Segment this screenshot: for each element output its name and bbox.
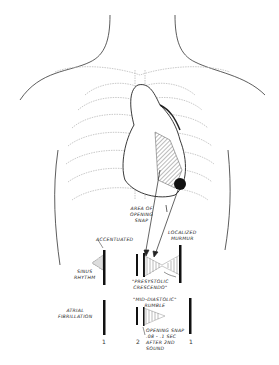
- label-line: RUMBLE: [133, 303, 177, 309]
- label-localized-murmur: LOCALIZED MURMUR: [168, 230, 197, 242]
- heart-sound-1b-number: 1: [189, 338, 193, 345]
- label-opening-snap-timing: OPENING SNAP .08 - .1 SEC AFTER 2ND SOUN…: [146, 328, 184, 352]
- label-atrial-fibrillation: ATRIAL FIBRILLATION: [58, 308, 92, 320]
- label-accentuated: ACCENTUATED: [96, 237, 133, 243]
- chest-diagram: [0, 0, 279, 365]
- label-line: RHYTHM: [74, 275, 95, 281]
- label-mid-diastolic-rumble: "MID-DIASTOLIC" RUMBLE: [133, 297, 177, 309]
- label-sinus-rhythm: SINUS RHYTHM: [74, 269, 95, 281]
- label-line: CRESCENDO": [132, 285, 169, 291]
- label-line: SNAP: [130, 218, 153, 224]
- label-line: SOUND: [146, 346, 184, 352]
- label-area-of-opening-snap: AREA OF OPENING SNAP: [130, 206, 153, 224]
- label-line: MURMUR: [168, 236, 197, 242]
- heart-sound-2-number: 2: [136, 338, 140, 345]
- label-line: FIBRILLATION: [58, 314, 92, 320]
- heart-sound-1-number: 1: [102, 338, 106, 345]
- label-presystolic-crescendo: "PRESYSTOLIC CRESCENDO": [132, 279, 169, 291]
- apex-murmur-area: [174, 178, 186, 190]
